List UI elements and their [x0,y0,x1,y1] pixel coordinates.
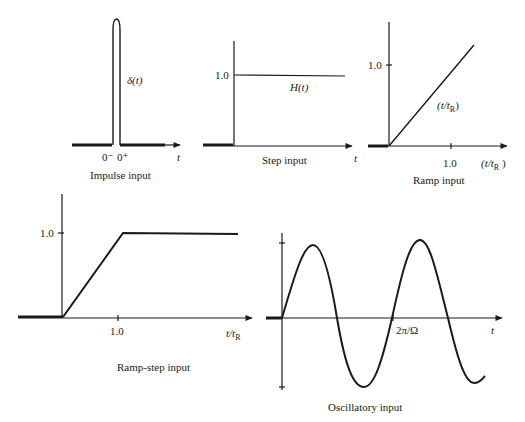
ramp-step-curve [63,233,238,317]
ramp-step-caption: Ramp-step input [117,361,190,373]
ramp-step-y-tick-1: 1.0 [40,227,54,239]
step-function-label: H(t) [289,81,309,94]
step-level-line [234,75,345,76]
ramp-step-x-tick-1: 1.0 [110,325,124,337]
oscillatory-caption: Oscillatory input [328,401,402,413]
ramp-line [389,45,474,146]
step-x-axis-label: t [354,152,358,164]
oscillatory-sine-curve [282,240,485,387]
input-types-diagram: δ(t) 0⁻ 0⁺ t Impulse input 1.0 H(t) Step… [0,0,525,422]
step-y-tick-1: 1.0 [215,69,229,81]
ramp-input-panel: 1.0 1.0 (t/tR) (t/tR ) Ramp input [368,22,507,186]
impulse-input-panel: δ(t) 0⁻ 0⁺ t Impulse input [72,19,181,181]
impulse-caption: Impulse input [90,169,151,181]
ramp-step-x-axis-label: t/tR [226,327,241,342]
ramp-step-input-panel: 1.0 1.0 t/tR Ramp-step input [18,194,252,373]
impulse-x-axis-label: t [177,151,181,163]
oscillatory-input-panel: 2π/Ω t Oscillatory input [266,233,502,413]
oscillatory-x-tick-label: 2π/Ω [396,324,418,336]
ramp-function-label: (t/tR) [437,99,459,114]
ramp-x-axis-label: (t/tR ) [481,157,506,172]
impulse-spike [113,19,120,145]
impulse-tick-0-plus: 0⁺ [117,151,129,163]
ramp-x-tick-1: 1.0 [443,157,457,169]
step-input-panel: 1.0 H(t) Step input t [203,41,358,166]
oscillatory-x-axis-label: t [491,324,495,336]
impulse-tick-0-minus: 0⁻ [102,151,114,163]
impulse-function-label: δ(t) [127,74,143,87]
ramp-caption: Ramp input [413,174,465,186]
step-caption: Step input [262,154,307,166]
ramp-y-tick-1: 1.0 [368,59,382,71]
